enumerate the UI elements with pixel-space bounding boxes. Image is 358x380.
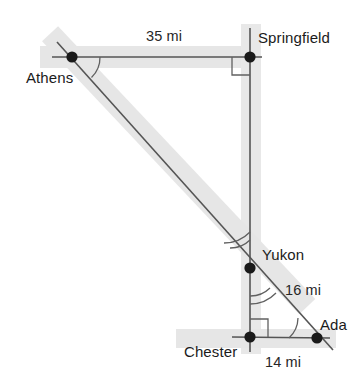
vertex-label-chester: Chester (184, 344, 237, 359)
diagram-canvas: Athens Springfield Yukon Chester Ada 35 … (0, 0, 358, 380)
vertex-dot-athens (66, 51, 77, 62)
measure-label-athens-springfield: 35 mi (146, 29, 182, 44)
vertex-dot-yukon (244, 262, 255, 273)
line-athens-ada (57, 42, 333, 350)
vertex-dot-chester (244, 331, 255, 342)
vertex-label-springfield: Springfield (258, 30, 330, 45)
vertex-label-ada: Ada (320, 317, 347, 332)
measure-label-yukon-ada: 16 mi (285, 283, 321, 298)
vertex-label-yukon: Yukon (262, 247, 304, 262)
geometry-figure (0, 0, 358, 380)
vertex-dot-springfield (244, 51, 255, 62)
measure-label-chester-ada: 14 mi (265, 355, 301, 370)
band-transversal (42, 26, 315, 314)
vertex-label-athens: Athens (26, 70, 73, 85)
band-transversal-group (42, 26, 315, 314)
vertex-dot-ada (311, 332, 322, 343)
